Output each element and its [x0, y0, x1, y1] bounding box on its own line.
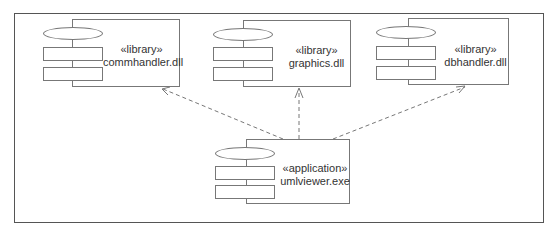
stereotype: «library»: [442, 43, 509, 56]
dependency-dbhandler: [333, 87, 465, 139]
component-name: graphics.dll: [282, 57, 351, 70]
component-ellipse-icon: [215, 147, 275, 160]
stereotype: «library»: [282, 44, 351, 57]
component-tab-icon: [215, 185, 275, 199]
arrowhead-icon: [162, 87, 170, 95]
component-tab-icon: [215, 166, 275, 180]
component-label: «application» umlviewer.exe: [275, 162, 355, 188]
component-label: «library» dbhandler.dll: [442, 43, 509, 69]
component-ellipse-icon: [213, 28, 273, 41]
component-tab-icon: [213, 47, 273, 61]
component-ellipse-icon: [376, 26, 436, 39]
component-name: dbhandler.dll: [442, 56, 509, 69]
component-tab-icon: [376, 66, 436, 80]
component-label: «library» commhandler.dll: [103, 43, 180, 69]
component-tab-icon: [376, 46, 436, 60]
component-name: umlviewer.exe: [275, 175, 355, 188]
component-tab-icon: [43, 47, 103, 61]
component-ellipse-icon: [43, 27, 103, 40]
component-label: «library» graphics.dll: [282, 44, 351, 70]
component-name: commhandler.dll: [103, 56, 180, 69]
component-tab-icon: [43, 67, 103, 81]
component-tab-icon: [213, 67, 273, 81]
stereotype: «application»: [275, 162, 355, 175]
dependency-commhandler: [163, 89, 283, 139]
stereotype: «library»: [103, 43, 180, 56]
